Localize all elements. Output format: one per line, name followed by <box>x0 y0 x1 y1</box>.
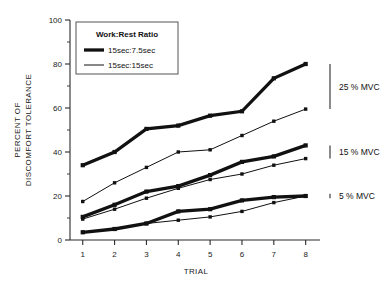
data-point-1-0 <box>81 200 84 203</box>
data-point-1-5 <box>240 134 243 137</box>
data-point-5-2 <box>145 222 148 225</box>
y-axis-ticks <box>65 20 70 240</box>
annotation-label-2: 5 % MVC <box>339 191 375 201</box>
x-tick-label: 1 <box>81 250 86 259</box>
data-point-4-3 <box>176 209 180 213</box>
data-point-1-6 <box>272 120 275 123</box>
x-tick-label: 5 <box>208 250 213 259</box>
data-point-4-6 <box>272 195 276 199</box>
y-axis-tick-labels: 020406080100 <box>49 16 63 245</box>
data-point-4-4 <box>208 207 212 211</box>
data-point-5-6 <box>272 201 275 204</box>
data-point-1-7 <box>304 107 307 110</box>
data-point-3-0 <box>81 217 84 220</box>
data-point-5-5 <box>240 210 243 213</box>
x-tick-label: 3 <box>144 250 149 259</box>
data-point-3-2 <box>145 197 148 200</box>
y-tick-label: 40 <box>53 148 62 157</box>
data-point-5-7 <box>304 194 307 197</box>
y-axis-title: PERCENT OF DISCOMFORT TOLERANCE <box>13 74 33 186</box>
data-point-3-1 <box>113 208 116 211</box>
data-point-1-4 <box>208 148 211 151</box>
y-tick-label: 100 <box>49 16 63 25</box>
data-point-2-6 <box>272 154 276 158</box>
x-tick-label: 4 <box>176 250 181 259</box>
x-tick-label: 2 <box>112 250 117 259</box>
data-point-0-2 <box>144 127 148 131</box>
data-point-2-4 <box>208 173 212 177</box>
data-point-5-1 <box>113 227 116 230</box>
x-tick-label: 6 <box>240 250 245 259</box>
data-point-3-5 <box>240 172 243 175</box>
y-tick-label: 20 <box>53 192 62 201</box>
data-point-5-0 <box>81 231 84 234</box>
data-point-3-4 <box>208 178 211 181</box>
annotation-label-1: 15 % MVC <box>339 147 380 157</box>
data-point-2-5 <box>240 160 244 164</box>
data-point-5-4 <box>208 215 211 218</box>
data-point-0-6 <box>272 76 276 80</box>
data-point-1-2 <box>145 166 148 169</box>
legend-label-1: 15sec:15sec <box>108 61 153 70</box>
line-chart: 020406080100 12345678 PERCENT OF DISCOMF… <box>0 0 392 297</box>
legend: Work:Rest Ratio 15sec:7.5sec 15sec:15sec <box>76 22 178 74</box>
marker-group <box>81 62 308 235</box>
data-point-2-7 <box>304 143 308 147</box>
x-tick-label: 7 <box>272 250 277 259</box>
data-point-0-0 <box>81 163 85 167</box>
x-tick-label: 8 <box>303 250 308 259</box>
y-tick-label: 0 <box>58 236 63 245</box>
x-axis-tick-labels: 12345678 <box>81 250 309 259</box>
data-point-2-1 <box>112 203 116 207</box>
x-axis-ticks <box>83 240 306 245</box>
data-point-2-2 <box>144 190 148 194</box>
annotation-label-0: 25 % MVC <box>339 82 380 92</box>
data-point-3-7 <box>304 157 307 160</box>
legend-title: Work:Rest Ratio <box>96 30 158 39</box>
figure-container: 020406080100 12345678 PERCENT OF DISCOMF… <box>0 0 392 297</box>
y-axis-title-line2: DISCOMFORT TOLERANCE <box>24 74 33 186</box>
data-point-1-1 <box>113 181 116 184</box>
y-axis-title-line1: PERCENT OF <box>13 102 22 157</box>
series-group <box>83 64 306 232</box>
data-point-3-6 <box>272 164 275 167</box>
data-point-4-5 <box>240 198 244 202</box>
x-axis-title: TRIAL <box>184 267 209 276</box>
data-point-0-3 <box>176 124 180 128</box>
group-annotations: 25 % MVC15 % MVC5 % MVC <box>330 64 380 201</box>
data-point-5-3 <box>177 219 180 222</box>
data-point-0-1 <box>112 150 116 154</box>
data-point-0-4 <box>208 114 212 118</box>
data-point-3-3 <box>177 187 180 190</box>
legend-label-0: 15sec:7.5sec <box>108 46 155 55</box>
data-point-0-7 <box>304 62 308 66</box>
y-tick-label: 80 <box>53 60 62 69</box>
data-point-1-3 <box>177 150 180 153</box>
data-point-0-5 <box>240 109 244 113</box>
y-tick-label: 60 <box>53 104 62 113</box>
